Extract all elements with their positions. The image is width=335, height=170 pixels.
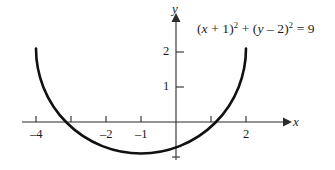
x-tick-label-neg2: –2 [100, 128, 113, 141]
x-tick-label-neg1: –1 [135, 128, 148, 141]
y-axis-label: y [172, 2, 178, 15]
equation-minus-two: – 2 [264, 21, 285, 36]
y-tick-label-pos2: 2 [163, 45, 169, 58]
equation-annotation: (x + 1)2 + (y – 2)2 = 9 [197, 22, 315, 36]
equation-plus-one: + 1 [208, 21, 230, 36]
x-axis-label: x [293, 115, 299, 128]
circle-graph-figure: –4 –2 –1 2 2 1 x y (x + 1)2 + (y – 2)2 =… [0, 0, 335, 170]
equation-equals-nine: = 9 [293, 21, 315, 36]
x-axis-arrow-icon [283, 118, 292, 127]
equation-plus-operator: + [238, 21, 253, 36]
x-tick-label-neg4: –4 [30, 128, 43, 141]
y-tick-label-pos1: 1 [163, 80, 169, 93]
x-tick-label-pos2: 2 [243, 128, 249, 141]
